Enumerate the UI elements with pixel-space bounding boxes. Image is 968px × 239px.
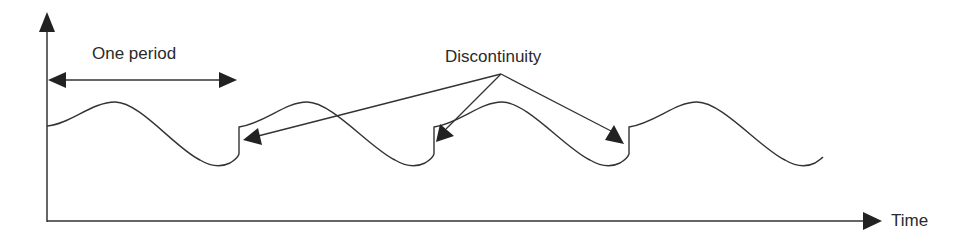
waveform-diagram: [0, 0, 968, 239]
discontinuity-label: Discontinuity: [445, 47, 541, 67]
arrow-icon-3: [605, 125, 624, 144]
arrow-icon-1: [243, 128, 262, 145]
y-axis: [39, 12, 55, 222]
x-axis: [47, 212, 882, 230]
waveform-curve: [47, 102, 823, 166]
y-axis-arrow-icon: [39, 12, 55, 32]
x-axis-arrow-icon: [863, 212, 882, 230]
left-arrow-icon: [48, 72, 66, 88]
right-arrow-icon: [219, 72, 237, 88]
x-axis-label: Time: [891, 211, 928, 231]
period-arrow: [48, 72, 237, 88]
period-label: One period: [92, 44, 176, 64]
